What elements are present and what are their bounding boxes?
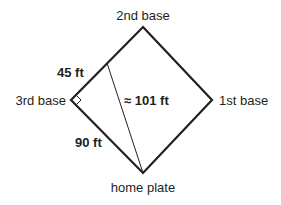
label-45-ft: 45 ft [57, 65, 84, 80]
right-angle-marker [76, 95, 81, 105]
distance-line [107, 63, 143, 173]
label-first-base: 1st base [219, 93, 268, 108]
label-second-base: 2nd base [116, 8, 170, 23]
label-home-plate: home plate [111, 180, 175, 195]
label-third-base: 3rd base [15, 93, 66, 108]
baseball-diamond-diagram: 2nd base 1st base home plate 3rd base 45… [0, 0, 281, 205]
label-90-ft: 90 ft [75, 135, 102, 150]
label-101-ft: ≈ 101 ft [124, 93, 169, 108]
